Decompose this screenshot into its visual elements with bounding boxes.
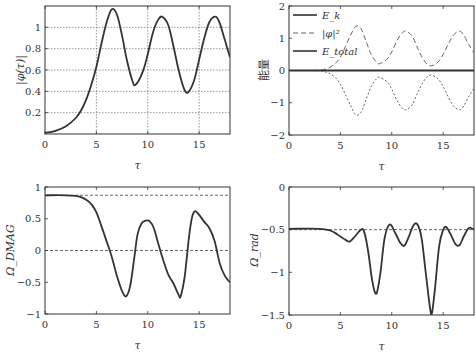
- panel-energy: 051015−2−1012τ能量E_k|φ|²E_total: [257, 1, 474, 174]
- x-axis-label: τ: [378, 340, 385, 353]
- y-tick-label: 1: [279, 33, 285, 44]
- y-tick-label: 2: [279, 1, 285, 12]
- y-axis-label: Ω_DMAG: [4, 224, 17, 277]
- x-tick-label: 0: [42, 319, 48, 330]
- series-line: [45, 195, 230, 298]
- legend-entry: E_k: [321, 10, 340, 22]
- x-tick-label: 5: [93, 139, 99, 150]
- axes-frame: [289, 187, 474, 315]
- y-tick-label: 0.5: [25, 213, 41, 224]
- series-line: [289, 70, 474, 115]
- x-axis-label: τ: [134, 339, 141, 352]
- y-tick-label: −0.5: [261, 224, 285, 235]
- x-tick-label: 10: [385, 320, 398, 331]
- x-tick-label: 10: [385, 140, 398, 151]
- y-axis-label: 能量: [257, 59, 271, 81]
- x-tick-label: 10: [141, 319, 154, 330]
- x-axis-label: τ: [134, 159, 141, 172]
- x-tick-label: 5: [337, 140, 343, 151]
- y-tick-label: −1: [26, 309, 41, 320]
- panel-omega-dmag: 051015−1−0.500.51τΩ_DMAG: [4, 182, 230, 353]
- y-tick-label: 0: [35, 245, 41, 256]
- x-axis-label: τ: [378, 160, 385, 173]
- y-tick-label: −2: [270, 130, 285, 141]
- figure: 0510150.20.40.60.81τ|φ(τ)|051015−2−1012τ…: [0, 0, 476, 354]
- y-tick-label: −0.5: [17, 277, 41, 288]
- x-tick-label: 5: [93, 319, 99, 330]
- series-line: [289, 223, 474, 314]
- legend-entry: |φ|²: [322, 28, 340, 40]
- y-tick-label: 0: [279, 65, 285, 76]
- y-tick-label: 0: [279, 182, 285, 193]
- y-tick-label: 1: [35, 182, 41, 193]
- x-tick-label: 15: [437, 140, 450, 151]
- y-tick-label: −1.5: [261, 310, 285, 321]
- x-tick-label: 10: [141, 139, 154, 150]
- x-tick-label: 15: [193, 139, 206, 150]
- y-tick-label: 0.2: [25, 107, 41, 118]
- x-tick-label: 15: [193, 319, 206, 330]
- y-axis-label: |φ(τ)|: [14, 55, 28, 85]
- y-tick-label: 0.4: [25, 86, 41, 97]
- y-tick-label: −1: [270, 267, 285, 278]
- x-tick-label: 15: [437, 320, 450, 331]
- panel-omega-rad: 051015−1.5−1−0.50τΩ_rad: [248, 182, 474, 354]
- x-tick-label: 0: [286, 140, 292, 151]
- series-line: [289, 26, 474, 71]
- x-tick-label: 0: [286, 320, 292, 331]
- y-tick-label: 0.6: [25, 65, 41, 76]
- y-tick-label: −1: [270, 97, 285, 108]
- y-axis-label: Ω_rad: [248, 233, 261, 267]
- panel-phi-abs: 0510150.20.40.60.81τ|φ(τ)|: [14, 6, 230, 172]
- y-tick-label: 1: [35, 22, 41, 33]
- x-tick-label: 5: [337, 320, 343, 331]
- legend: E_k|φ|²E_total: [293, 10, 358, 58]
- y-tick-label: 0.8: [25, 43, 41, 54]
- legend-entry: E_total: [321, 46, 358, 58]
- x-tick-label: 0: [42, 139, 48, 150]
